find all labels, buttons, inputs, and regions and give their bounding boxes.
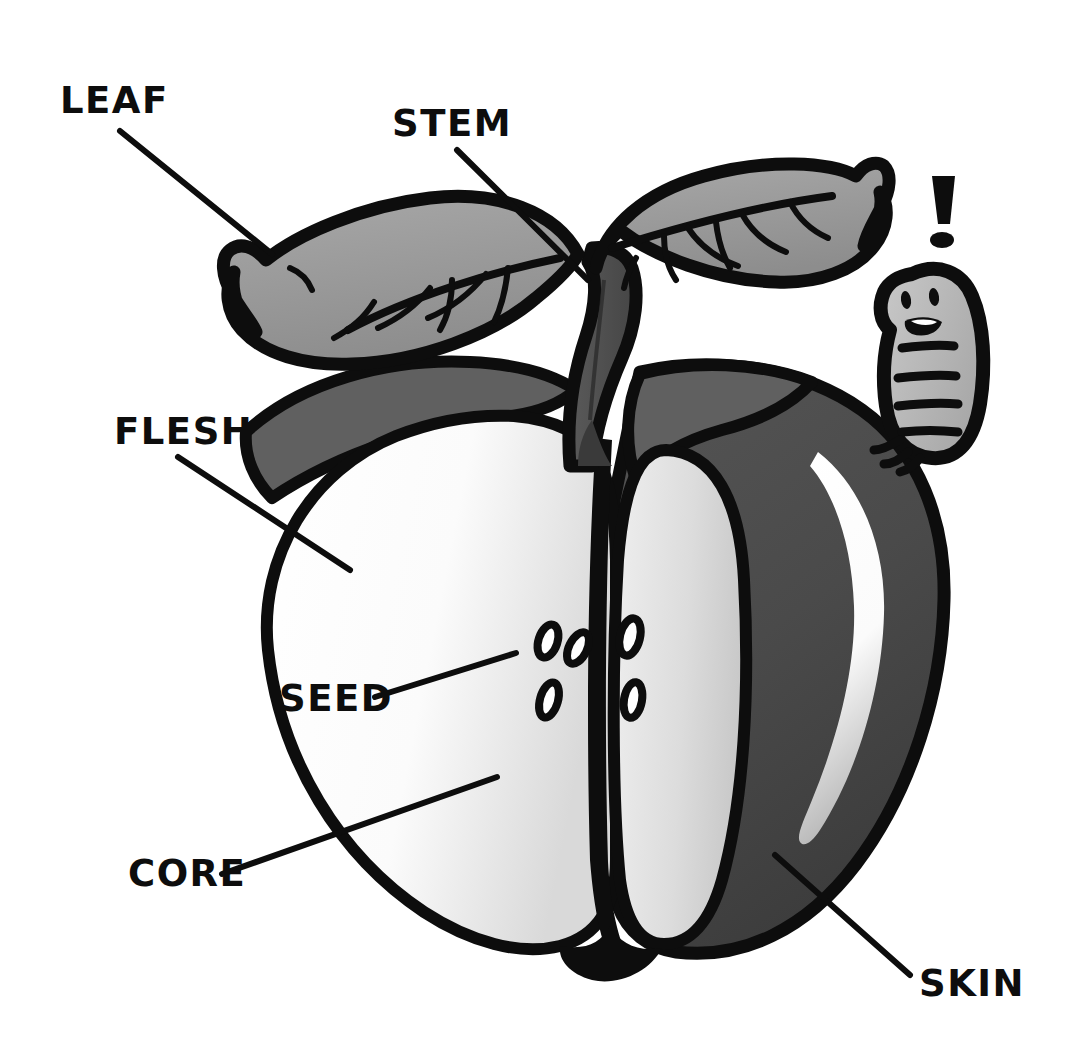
apple-anatomy-illustration: LEAF STEM FLESH SEED CORE SKIN <box>0 0 1071 1050</box>
leaf-left-group <box>223 196 578 364</box>
label-core: CORE <box>128 852 246 895</box>
leaf-right <box>596 163 889 282</box>
diagram-root: LEAF STEM FLESH SEED CORE SKIN <box>0 0 1071 1050</box>
label-skin: SKIN <box>919 962 1025 1005</box>
label-flesh: FLESH <box>114 410 253 453</box>
leaf-left <box>223 196 578 364</box>
worm-group <box>874 269 983 472</box>
label-seed: SEED <box>279 677 393 720</box>
label-leaf: LEAF <box>60 79 169 122</box>
exclamation-mark-group <box>930 176 955 248</box>
label-stem: STEM <box>392 102 512 145</box>
exclamation-stroke <box>932 176 955 224</box>
leaf-right-group <box>596 163 889 288</box>
seed-5 <box>621 681 645 720</box>
exclamation-dot <box>930 232 954 248</box>
leader-line-leaf <box>120 131 272 254</box>
